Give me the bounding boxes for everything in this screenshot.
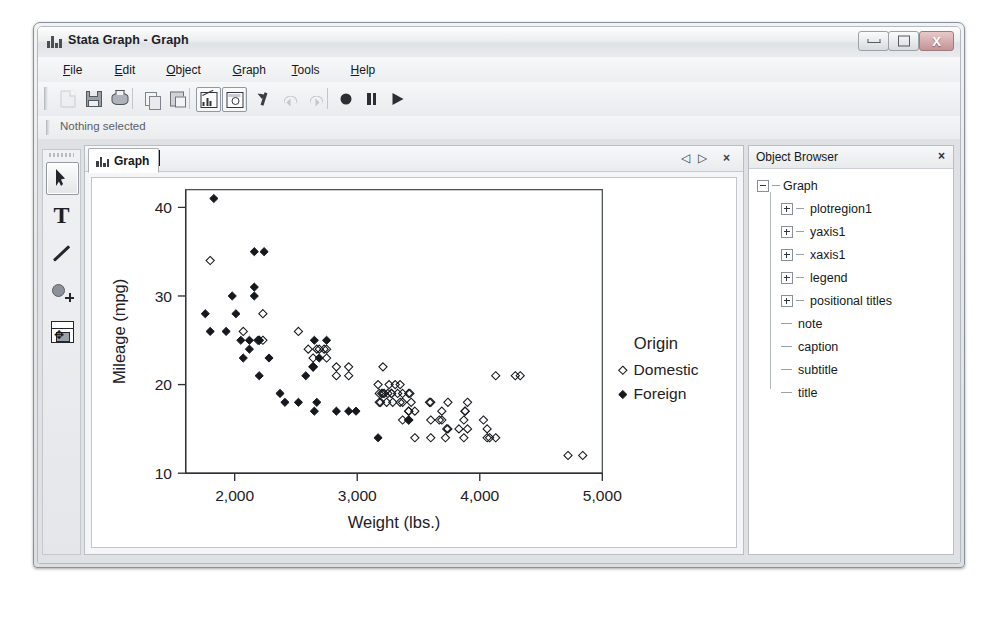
grapheditor-icon[interactable] [196,87,221,112]
grid-edit-tool[interactable]: ✥ [46,316,77,347]
tree-node-positional-titles[interactable]: positional titles [749,289,953,312]
data-point[interactable] [405,407,413,415]
tab-graph[interactable]: Graph [88,148,159,173]
data-point[interactable] [438,407,446,415]
data-point[interactable] [222,327,230,335]
data-point[interactable] [461,407,469,415]
collapse-icon[interactable] [757,180,769,192]
data-point[interactable] [396,381,404,389]
data-point[interactable] [345,372,353,380]
tree-node-title[interactable]: title [749,381,953,404]
data-point[interactable] [483,434,491,442]
save-icon[interactable] [82,87,105,110]
tree-node-note[interactable]: note [749,312,953,335]
tree-node-plotregion1[interactable]: plotregion1 [749,197,953,220]
data-point[interactable] [407,398,415,406]
legend-marker-foreign[interactable] [619,390,627,398]
data-point[interactable] [206,327,214,335]
data-point[interactable] [345,363,353,371]
tree-node-legend[interactable]: legend [749,266,953,289]
data-point[interactable] [411,434,419,442]
data-point[interactable] [405,416,413,424]
data-point[interactable] [332,363,340,371]
data-point[interactable] [309,363,317,371]
data-point[interactable] [228,292,236,300]
marker-tool[interactable] [46,276,77,307]
data-point[interactable] [427,434,435,442]
data-point[interactable] [281,398,289,406]
x-axis-title[interactable]: Weight (lbs.) [348,513,441,532]
data-point[interactable] [259,310,267,318]
data-point[interactable] [352,407,360,415]
copy-icon[interactable] [139,87,162,110]
print-icon[interactable] [108,87,131,110]
new-icon[interactable] [56,87,79,110]
graph-canvas[interactable]: 102030402,0003,0004,0005,000Weight (lbs.… [91,177,737,548]
toolbar-grip[interactable] [44,87,48,110]
data-point[interactable] [237,336,245,344]
legend-label-foreign[interactable]: Foreign [634,385,687,402]
objectbrowser-icon[interactable] [222,87,247,112]
data-point[interactable] [313,398,321,406]
close-button[interactable]: X [919,31,954,51]
tree-node-Graph[interactable]: Graph [749,174,953,197]
data-point[interactable] [460,416,468,424]
data-point[interactable] [245,336,253,344]
maximize-button[interactable] [888,31,919,51]
pointer-tool[interactable] [46,162,79,195]
data-point[interactable] [435,416,443,424]
data-point[interactable] [265,354,273,362]
tree-node-xaxis1[interactable]: xaxis1 [749,243,953,266]
data-point[interactable] [483,425,491,433]
status-grip[interactable] [46,120,50,135]
data-point[interactable] [405,407,413,415]
data-point[interactable] [310,407,318,415]
data-point[interactable] [332,372,340,380]
play-icon[interactable] [386,87,409,110]
legend-label-domestic[interactable]: Domestic [634,361,699,378]
data-point[interactable] [294,327,302,335]
data-point[interactable] [201,310,209,318]
legend-title[interactable]: Origin [634,334,678,353]
palette-grip[interactable] [49,153,74,157]
data-point[interactable] [391,381,399,389]
redo-icon[interactable] [304,87,327,110]
tab-prev-icon[interactable]: ◁ [681,150,690,166]
pause-icon[interactable] [360,87,383,110]
data-point[interactable] [310,336,318,344]
data-point[interactable] [374,434,382,442]
expand-icon[interactable] [781,272,793,284]
data-point[interactable] [260,248,268,256]
expand-icon[interactable] [781,249,793,261]
text-tool[interactable]: T [46,200,77,231]
data-point[interactable] [332,407,340,415]
tab-next-icon[interactable]: ▷ [698,150,707,166]
object-browser-close-icon[interactable]: × [938,149,945,163]
tree-node-caption[interactable]: caption [749,335,953,358]
line-tool[interactable] [46,238,77,269]
data-point[interactable] [245,345,253,353]
data-point[interactable] [455,425,463,433]
data-point[interactable] [485,434,493,442]
record-icon[interactable] [334,87,357,110]
data-point[interactable] [411,407,419,415]
data-point[interactable] [210,194,218,202]
data-point[interactable] [516,372,524,380]
tree-node-subtitle[interactable]: subtitle [749,358,953,381]
expand-icon[interactable] [781,226,793,238]
data-point[interactable] [463,398,471,406]
expand-icon[interactable] [781,203,793,215]
paste-icon[interactable] [165,87,188,110]
undo-icon[interactable] [278,87,301,110]
data-point[interactable] [479,416,487,424]
data-point[interactable] [379,363,387,371]
tree-node-yaxis1[interactable]: yaxis1 [749,220,953,243]
data-point[interactable] [444,398,452,406]
data-point[interactable] [322,336,330,344]
data-point[interactable] [427,416,435,424]
y-axis-title[interactable]: Mileage (mpg) [110,279,129,384]
data-point[interactable] [250,292,258,300]
data-point[interactable] [441,434,449,442]
title-bar[interactable]: Stata Graph - Graph X [38,27,960,58]
data-point[interactable] [460,434,468,442]
